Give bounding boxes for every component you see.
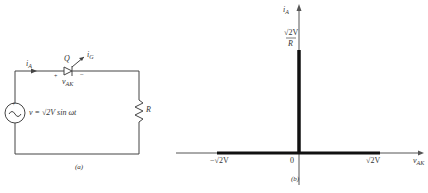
minus-sign: −: [80, 72, 84, 79]
x-axis-label: vAK: [413, 157, 424, 166]
x-tick-positive: √2V: [366, 157, 380, 165]
sine-wave-icon: [9, 112, 21, 117]
x-axis-arrow-icon: [418, 151, 424, 156]
source-plus: +: [12, 101, 15, 107]
current-label: iA: [26, 60, 32, 69]
device-label: Q: [64, 55, 70, 63]
vak-label: vAK: [62, 78, 73, 87]
source-equation: v = √2V sin ωt: [29, 109, 76, 117]
y-axis-label: iA: [283, 6, 289, 15]
resistor-icon: [135, 100, 143, 122]
x-tick-negative: −√2V: [210, 157, 229, 165]
caption-b: (b): [291, 176, 299, 183]
x-tick-zero: 0: [290, 157, 294, 165]
resistor-label: R: [146, 106, 151, 114]
current-arrow-icon: [31, 69, 37, 74]
plus-sign: +: [54, 73, 57, 79]
gate-current-label: iG: [87, 51, 94, 60]
y-tick-numerator: √2V: [284, 29, 298, 37]
caption-a: (a): [75, 164, 83, 171]
y-axis-arrow-icon: [297, 4, 302, 11]
y-tick-denominator: R: [288, 40, 293, 48]
